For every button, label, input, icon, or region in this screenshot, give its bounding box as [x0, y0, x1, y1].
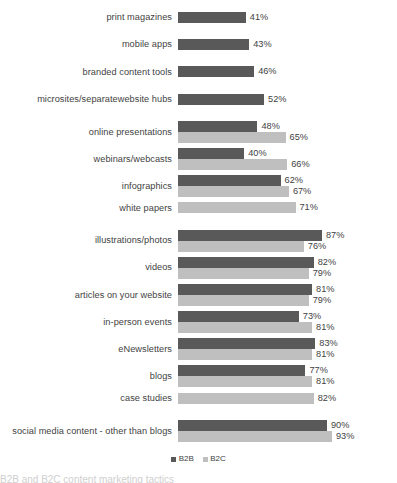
chart-row: in-person events73%81% — [0, 311, 397, 333]
bar-b2b[interactable] — [178, 66, 254, 77]
bar-line-b2b: 83% — [178, 338, 397, 349]
bar-b2c[interactable] — [178, 241, 304, 252]
bar-b2b[interactable] — [178, 148, 244, 159]
chart-row: illustrations/photos87%76% — [0, 230, 397, 252]
category-label: online presentations — [0, 127, 178, 138]
row-bars: 82% — [178, 393, 397, 404]
bar-line-b2b: 90% — [178, 420, 397, 431]
bar-b2c[interactable] — [178, 268, 309, 279]
bar-line-b2c: 79% — [178, 268, 397, 279]
category-label: in-person events — [0, 317, 178, 328]
category-label: microsites/separatewebsite hubs — [0, 94, 178, 105]
bar-b2c[interactable] — [178, 159, 287, 170]
bar-line-b2c: 71% — [178, 202, 397, 213]
bar-b2c[interactable] — [178, 186, 289, 197]
legend-label: B2C — [210, 455, 226, 463]
category-label: print magazines — [0, 12, 178, 23]
bar-line-b2b: 41% — [178, 12, 397, 23]
category-label: webinars/webcasts — [0, 154, 178, 165]
bar-line-b2b: 81% — [178, 284, 397, 295]
bar-line-b2c: 81% — [178, 349, 397, 360]
bar-line-b2b: 73% — [178, 311, 397, 322]
bar-line-b2b: 52% — [178, 94, 397, 105]
row-bars: 40%66% — [178, 148, 397, 170]
bar-line-b2c: 76% — [178, 241, 397, 252]
bar-value-label: 48% — [261, 121, 279, 132]
bar-b2b[interactable] — [178, 420, 327, 431]
bar-value-label: 73% — [303, 311, 321, 322]
legend-swatch-icon — [203, 457, 208, 462]
chart-row: mobile apps43% — [0, 39, 397, 50]
bar-b2b[interactable] — [178, 121, 257, 132]
plot-area: print magazines41%mobile apps43%branded … — [0, 12, 397, 447]
row-bars: 46% — [178, 66, 397, 77]
row-bars: 62%67% — [178, 175, 397, 197]
bar-b2c[interactable] — [178, 295, 309, 306]
bar-line-b2b: 43% — [178, 39, 397, 50]
bar-value-label: 40% — [248, 148, 266, 159]
bar-value-label: 82% — [318, 257, 336, 268]
bar-line-b2b: 87% — [178, 230, 397, 241]
category-label: mobile apps — [0, 39, 178, 50]
row-bars: 81%79% — [178, 284, 397, 306]
bar-b2c[interactable] — [178, 349, 312, 360]
bar-b2b[interactable] — [178, 39, 249, 50]
row-bars: 52% — [178, 94, 397, 105]
bar-value-label: 81% — [316, 322, 334, 333]
bar-b2b[interactable] — [178, 284, 312, 295]
category-label: illustrations/photos — [0, 235, 178, 246]
bar-value-label: 90% — [331, 420, 349, 431]
bar-line-b2b: 48% — [178, 121, 397, 132]
bar-line-b2c: 67% — [178, 186, 397, 197]
bar-chart: print magazines41%mobile apps43%branded … — [0, 0, 397, 483]
bar-line-b2c: 82% — [178, 393, 397, 404]
row-bars: 82%79% — [178, 257, 397, 279]
category-label: videos — [0, 262, 178, 273]
row-bars: 48%65% — [178, 121, 397, 143]
bar-b2c[interactable] — [178, 132, 286, 143]
bar-value-label: 81% — [316, 349, 334, 360]
bar-value-label: 79% — [313, 295, 331, 306]
legend-swatch-icon — [171, 457, 176, 462]
row-bars: 83%81% — [178, 338, 397, 360]
bar-b2c[interactable] — [178, 431, 332, 442]
category-label: infographics — [0, 181, 178, 192]
bar-b2b[interactable] — [178, 365, 305, 376]
bar-value-label: 46% — [258, 66, 276, 77]
chart-row: white papers71% — [0, 202, 397, 213]
bar-value-label: 65% — [290, 132, 308, 143]
category-label: case studies — [0, 393, 178, 404]
bar-b2b[interactable] — [178, 257, 314, 268]
bar-value-label: 81% — [316, 284, 334, 295]
bar-line-b2b: 82% — [178, 257, 397, 268]
category-label: branded content tools — [0, 67, 178, 78]
bar-b2c[interactable] — [178, 322, 312, 333]
chart-row: webinars/webcasts40%66% — [0, 148, 397, 170]
row-bars: 41% — [178, 12, 397, 23]
category-label: white papers — [0, 203, 178, 214]
bar-line-b2c: 79% — [178, 295, 397, 306]
bar-value-label: 41% — [250, 12, 268, 23]
chart-row: branded content tools46% — [0, 66, 397, 77]
legend-item-b2b[interactable]: B2B — [171, 455, 194, 463]
chart-row: articles on your website81%79% — [0, 284, 397, 306]
chart-row: social media content - other than blogs9… — [0, 420, 397, 442]
bar-line-b2c: 81% — [178, 376, 397, 387]
bar-line-b2c: 93% — [178, 431, 397, 442]
bar-b2c[interactable] — [178, 393, 314, 404]
bar-b2b[interactable] — [178, 175, 281, 186]
bar-value-label: 83% — [319, 338, 337, 349]
bar-value-label: 67% — [293, 186, 311, 197]
bar-b2c[interactable] — [178, 202, 296, 213]
bar-b2b[interactable] — [178, 12, 246, 23]
row-bars: 73%81% — [178, 311, 397, 333]
legend-label: B2B — [179, 455, 194, 463]
bar-line-b2c: 65% — [178, 132, 397, 143]
legend-item-b2c[interactable]: B2C — [203, 455, 226, 463]
bar-line-b2b: 46% — [178, 66, 397, 77]
bar-b2b[interactable] — [178, 338, 315, 349]
bar-b2b[interactable] — [178, 311, 299, 322]
bar-b2c[interactable] — [178, 376, 312, 387]
bar-b2b[interactable] — [178, 230, 322, 241]
bar-b2b[interactable] — [178, 94, 264, 105]
